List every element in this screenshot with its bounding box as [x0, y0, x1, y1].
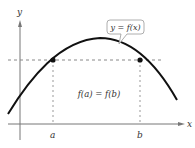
point-a [50, 57, 55, 62]
rolles-theorem-diagram: y x a b y = f(x) f(a) = f(b) [0, 0, 195, 148]
equation-label: f(a) = f(b) [77, 89, 121, 99]
x-axis-label: x [187, 119, 192, 129]
function-curve [8, 38, 177, 114]
point-b [137, 57, 142, 62]
callout-text: y = f(x) [109, 23, 140, 32]
x-axis-arrow-icon [178, 122, 185, 126]
y-axis-label: y [16, 7, 23, 17]
y-axis-arrow-icon [18, 20, 22, 27]
a-label: a [50, 130, 55, 140]
b-label: b [137, 130, 143, 140]
